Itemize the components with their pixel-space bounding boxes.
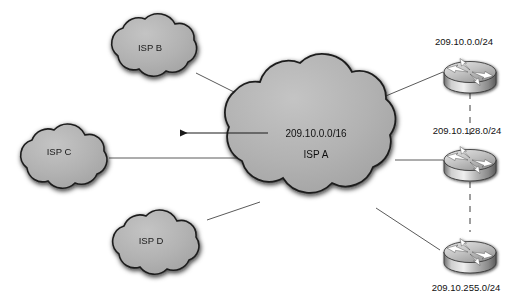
router-top-face xyxy=(444,62,496,83)
isp-c-label: ISP C xyxy=(47,146,72,157)
isp-d-label: ISP D xyxy=(139,235,164,246)
isp-b-label: ISP B xyxy=(138,42,162,53)
isp-a-cloud-shape xyxy=(225,54,396,193)
isp-a-cloud[interactable]: 209.10.0.0/16 ISP A xyxy=(225,54,396,193)
isp-c-cloud[interactable]: ISP C xyxy=(21,124,107,188)
router-middle-label: 209.10.128.0/24 xyxy=(433,125,502,136)
router-bottom-label: 209.10.255.0/24 xyxy=(432,282,501,293)
isp-d-cloud[interactable]: ISP D xyxy=(113,210,199,274)
router-bottom-face xyxy=(444,242,496,263)
router-middle-face xyxy=(444,150,496,171)
link-isp-a-to-router-top xyxy=(381,72,443,98)
router-top[interactable]: 209.10.0.0/24 xyxy=(435,36,496,93)
link-isp-d-to-isp-a xyxy=(207,202,260,220)
isp-b-cloud[interactable]: ISP B xyxy=(112,14,197,76)
router-top-label: 209.10.0.0/24 xyxy=(435,36,493,47)
isp-a-label: ISP A xyxy=(304,149,329,160)
router-bottom[interactable]: 209.10.255.0/24 xyxy=(432,239,501,293)
network-topology-diagram: ISP B ISP C ISP D 209.10.0.0/16 ISP A 20… xyxy=(0,0,525,302)
link-isp-a-to-router-bottom xyxy=(376,208,440,250)
isp-a-network-label: 209.10.0.0/16 xyxy=(285,128,347,139)
router-middle[interactable]: 209.10.128.0/24 xyxy=(433,125,502,181)
